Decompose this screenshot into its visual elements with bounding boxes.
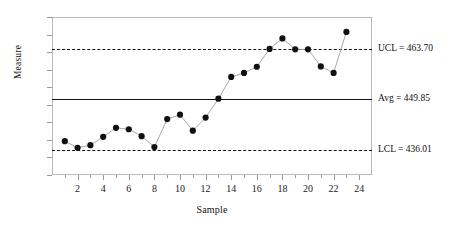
data-point-23: [343, 29, 349, 35]
data-point-6: [126, 126, 132, 132]
data-point-13: [215, 96, 221, 102]
data-point-2: [75, 145, 81, 151]
data-point-8: [151, 144, 157, 150]
data-point-10: [177, 112, 183, 118]
data-point-15: [241, 70, 247, 76]
data-point-1: [62, 138, 68, 144]
data-point-5: [113, 125, 119, 131]
data-point-22: [331, 70, 337, 76]
data-point-12: [203, 115, 209, 121]
data-series: [0, 0, 456, 234]
data-point-17: [267, 46, 273, 52]
data-point-4: [100, 134, 106, 140]
data-point-9: [164, 116, 170, 122]
series-line: [65, 32, 347, 148]
data-point-14: [228, 74, 234, 80]
data-point-7: [139, 133, 145, 139]
data-point-16: [254, 64, 260, 70]
control-chart: Measure Sample 24681012141618202224 UCL …: [0, 0, 456, 234]
data-point-21: [318, 63, 324, 69]
data-point-19: [292, 46, 298, 52]
data-point-18: [279, 35, 285, 41]
data-point-3: [87, 142, 93, 148]
data-point-20: [305, 46, 311, 52]
data-point-11: [190, 128, 196, 134]
